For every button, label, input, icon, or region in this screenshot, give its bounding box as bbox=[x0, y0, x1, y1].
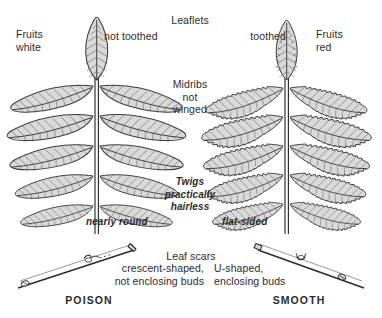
label-right-leaf-scar: U-shaped, enclosing buds bbox=[214, 262, 304, 287]
label-left-fruits: Fruits white bbox=[16, 28, 72, 53]
label-right-fruits: Fruits red bbox=[316, 28, 372, 53]
label-left-leaf-scar: crescent-shaped, not enclosing buds bbox=[106, 262, 204, 287]
label-leaf-scars: Leaf scars bbox=[151, 250, 231, 263]
label-leaflets: Leaflets bbox=[150, 14, 230, 27]
label-left-twig-shape: nearly round bbox=[86, 216, 166, 229]
label-right-leaflet-margin: toothed bbox=[226, 30, 286, 43]
label-midribs: Midribs not winged bbox=[150, 78, 230, 116]
label-left-species-name: POISON bbox=[44, 294, 134, 307]
label-right-twig-shape: flat-sided bbox=[222, 216, 292, 229]
label-twigs: Twigs practically hairless bbox=[143, 176, 237, 214]
sumac-comparison-figure: Fruits white not toothed Leaflets Midrib… bbox=[0, 0, 382, 318]
label-left-leaflet-margin: not toothed bbox=[104, 30, 178, 43]
label-right-species-name: SMOOTH bbox=[254, 294, 344, 307]
